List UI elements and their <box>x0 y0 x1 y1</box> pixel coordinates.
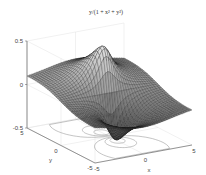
svg-text:5: 5 <box>20 130 24 136</box>
svg-text:0.5: 0.5 <box>15 38 24 44</box>
surface-plot: y/(1 + x² + y²) -0.500.5-505-505 x y <box>0 0 206 175</box>
svg-text:5: 5 <box>192 148 196 154</box>
svg-text:0: 0 <box>144 157 148 163</box>
svg-text:-5: -5 <box>94 166 100 172</box>
svg-text:0: 0 <box>20 82 24 88</box>
x-axis-label: x <box>148 167 151 173</box>
svg-text:0: 0 <box>54 148 58 154</box>
y-axis-label: y <box>49 157 52 163</box>
surface-mesh <box>27 46 192 140</box>
surface-plot-figure: y/(1 + x² + y²) -0.500.5-505-505 x y <box>0 0 206 175</box>
chart-title: y/(1 + x² + y²) <box>89 9 123 16</box>
svg-text:-5: -5 <box>87 165 93 171</box>
